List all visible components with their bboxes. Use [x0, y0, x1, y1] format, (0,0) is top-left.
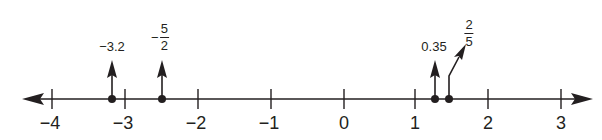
- number-line-diagram: −4 −3 −2 −1 0 1 2 3 −3.2 − 5 2 0.35 2 5: [0, 0, 602, 140]
- tick-label: 1: [410, 114, 420, 132]
- fraction-sign: −: [151, 30, 159, 45]
- point-label-neg-5-2: − 5 2: [151, 22, 169, 52]
- fraction-denominator: 2: [160, 39, 169, 53]
- fraction-denominator: 5: [464, 35, 473, 49]
- point-marker-0-35: [430, 60, 440, 103]
- point-label-0-35: 0.35: [421, 40, 446, 53]
- tick-label: 3: [556, 114, 566, 132]
- point-marker-2-5: [445, 44, 466, 103]
- fraction-numerator: 2: [464, 18, 473, 32]
- number-line-svg: [0, 0, 602, 140]
- fraction-numerator: 5: [160, 22, 169, 36]
- tick-label: −4: [40, 114, 61, 132]
- point-label-neg-3-2: −3.2: [99, 40, 125, 53]
- tick-label: 2: [483, 114, 493, 132]
- tick-label: 0: [339, 114, 349, 132]
- tick-label: −2: [186, 114, 207, 132]
- point-marker-neg-3-2: [107, 60, 117, 103]
- tick-label: −1: [259, 114, 280, 132]
- tick-label: −3: [113, 114, 134, 132]
- point-marker-neg-5-2: [157, 60, 167, 103]
- point-label-2-5: 2 5: [464, 18, 473, 48]
